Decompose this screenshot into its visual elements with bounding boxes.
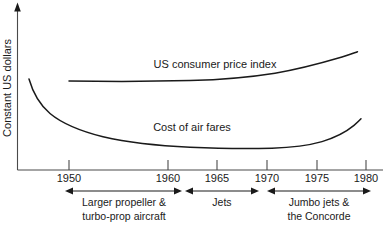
era2-left-arrow-icon — [185, 187, 193, 194]
x-tick-label-1950: 1950 — [57, 172, 81, 184]
era1-label-line1: Larger propeller & — [82, 196, 166, 208]
axes-group — [14, 3, 383, 171]
x-axis-ticks — [69, 160, 366, 170]
era1-right-arrow-icon — [174, 187, 182, 194]
chart-canvas: 1950 1960 1965 1970 1975 1980 Constant U… — [0, 0, 383, 227]
y-axis-title: Constant US dollars — [1, 39, 13, 137]
chart-figure: 1950 1960 1965 1970 1975 1980 Constant U… — [0, 0, 383, 227]
era-bracket-larger-propeller: Larger propeller & turbo-prop aircraft — [65, 187, 182, 222]
y-axis-arrow-icon — [14, 3, 21, 12]
x-tick-label-1970: 1970 — [255, 172, 279, 184]
era3-right-arrow-icon — [363, 187, 371, 194]
era2-label-line1: Jets — [212, 196, 231, 208]
x-axis-tick-labels: 1950 1960 1965 1970 1975 1980 — [57, 172, 378, 184]
era3-label-line1: Jumbo jets & — [289, 196, 350, 208]
series-label-airfares: Cost of air fares — [153, 121, 231, 133]
x-tick-label-1960: 1960 — [156, 172, 180, 184]
era2-right-arrow-icon — [251, 187, 259, 194]
era-bracket-jets: Jets — [185, 187, 259, 208]
era-bracket-jumbo-jets: Jumbo jets & the Concorde — [267, 187, 371, 222]
x-tick-label-1965: 1965 — [205, 172, 229, 184]
series-label-cpi: US consumer price index — [154, 58, 277, 70]
x-tick-label-1975: 1975 — [305, 172, 329, 184]
era1-left-arrow-icon — [65, 187, 73, 194]
x-tick-label-1980: 1980 — [354, 172, 378, 184]
era3-left-arrow-icon — [267, 187, 275, 194]
series-curve-airfares — [29, 79, 361, 149]
era3-label-line2: the Concorde — [287, 210, 350, 222]
era1-label-line2: turbo-prop aircraft — [82, 210, 166, 222]
